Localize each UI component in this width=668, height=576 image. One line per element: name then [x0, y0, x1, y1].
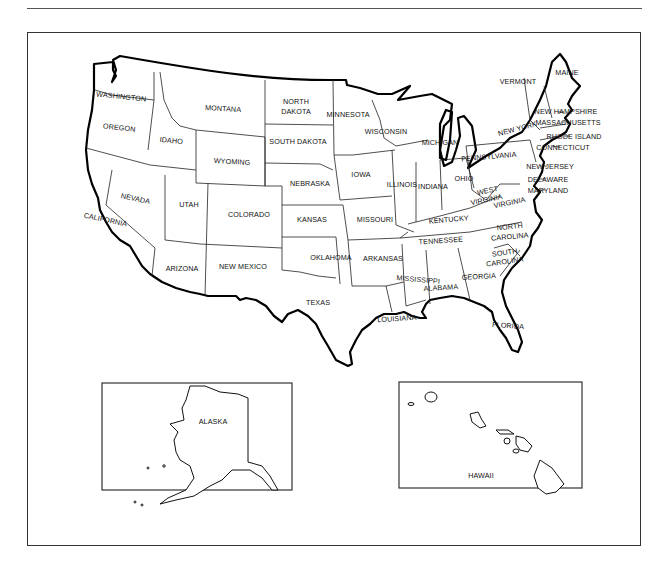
- state-label-wyoming: WYOMING: [214, 156, 251, 167]
- state-label-utah: UTAH: [179, 200, 198, 209]
- niihau-island: [408, 403, 414, 406]
- state-label-nebraska: NEBRASKA: [290, 179, 330, 188]
- kahoolawe-island: [513, 449, 519, 453]
- hawaii-label: HAWAII: [468, 471, 494, 480]
- state-label-illinois: ILLINOIS: [387, 180, 417, 189]
- hawaii-inset: HAWAII: [399, 382, 582, 494]
- state-label-new-jersey: NEW JERSEY: [526, 162, 574, 171]
- state-label-alabama: ALABAMA: [423, 282, 458, 293]
- state-labels: WASHINGTONOREGONIDAHOMONTANAWYOMINGNORTH…: [83, 68, 579, 331]
- state-label-florida: FLORIDA: [492, 320, 525, 331]
- state-label-massachusetts: MASSACHUSETTS: [535, 118, 600, 127]
- state-label-vermont: VERMONT: [500, 77, 537, 86]
- state-label-indiana: INDIANA: [418, 182, 448, 191]
- state-label-louisiana: LOUISIANA: [377, 313, 417, 325]
- state-label-carolina: CAROLINA: [485, 254, 524, 268]
- state-label-michigan: MICHIGAN: [422, 138, 459, 147]
- state-label-pennsylvania: PENNSYLVANIA: [461, 150, 517, 164]
- state-label-delaware: DELAWARE: [528, 175, 569, 184]
- state-label-georgia: GEORGIA: [462, 271, 497, 282]
- state-label-kansas: KANSAS: [297, 215, 327, 224]
- alaska-label: ALASKA: [199, 417, 228, 426]
- state-label-oklahoma: OKLAHOMA: [310, 253, 352, 262]
- state-label-south-dakota: SOUTH DAKOTA: [269, 137, 326, 146]
- state-label-dakota: DAKOTA: [281, 107, 311, 116]
- state-label-nevada: NEVADA: [120, 191, 151, 206]
- state-label-idaho: IDAHO: [159, 135, 183, 146]
- alaska-inset: ALASKA: [102, 383, 292, 506]
- state-label-ohio: OHIO: [455, 174, 474, 183]
- state-label-wisconsin: WISCONSIN: [365, 127, 407, 136]
- state-label-california: CALIFORNIA: [83, 211, 128, 229]
- state-label-new-hampshire: NEW HAMPSHIRE: [535, 107, 598, 116]
- state-label-maryland: MARYLAND: [528, 186, 569, 195]
- state-label-washington: WASHINGTON: [96, 89, 147, 103]
- state-label-montana: MONTANA: [205, 103, 242, 114]
- us-map: WASHINGTONOREGONIDAHOMONTANAWYOMINGNORTH…: [0, 0, 668, 576]
- state-label-tennessee: TENNESSEE: [418, 234, 463, 246]
- state-label-maine: MAINE: [555, 68, 578, 77]
- state-label-oregon: OREGON: [103, 121, 136, 133]
- state-label-rhode-island: RHODE ISLAND: [546, 132, 601, 141]
- lanai-island: [504, 438, 510, 444]
- state-label-arkansas: ARKANSAS: [363, 254, 403, 263]
- state-label-new-mexico: NEW MEXICO: [219, 262, 267, 271]
- state-label-texas: TEXAS: [306, 298, 330, 307]
- state-label-connecticut: CONNECTICUT: [536, 143, 590, 152]
- state-label-minnesota: MINNESOTA: [326, 110, 369, 119]
- state-label-kentucky: KENTUCKY: [428, 213, 469, 225]
- state-label-iowa: IOWA: [351, 170, 370, 179]
- state-label-colorado: COLORADO: [228, 210, 270, 219]
- state-label-carolina: CAROLINA: [491, 230, 529, 242]
- state-label-arizona: ARIZONA: [166, 264, 199, 273]
- state-label-north: NORTH: [283, 97, 309, 106]
- callout-labels: NEW HAMPSHIREMASSACHUSETTSRHODE ISLANDCO…: [526, 107, 601, 195]
- kauai-island: [425, 392, 437, 402]
- state-label-missouri: MISSOURI: [357, 215, 393, 224]
